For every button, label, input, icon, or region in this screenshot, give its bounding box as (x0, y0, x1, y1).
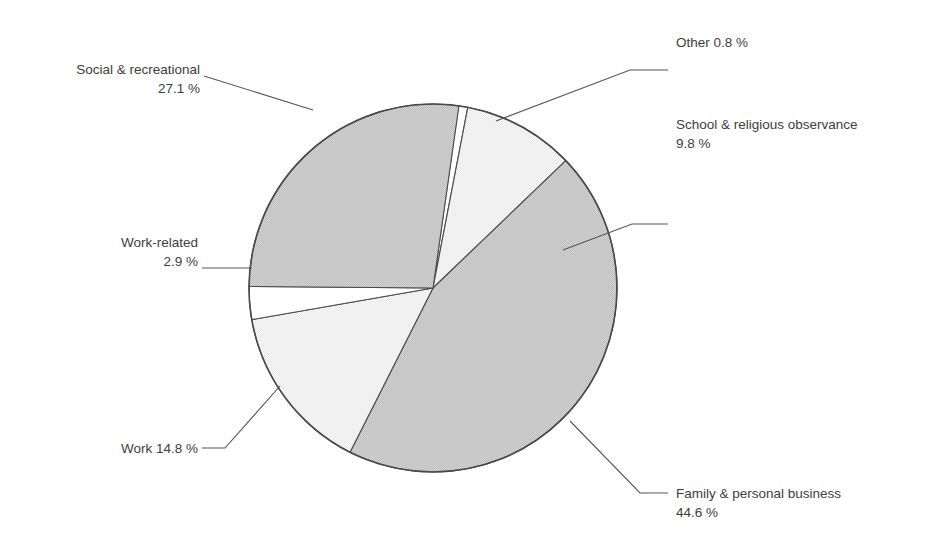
label-school-religious-line1: School & religious observance (676, 117, 858, 132)
label-work: Work 14.8 % (18, 439, 198, 458)
label-school-religious: School & religious observance 9.8 % (676, 115, 926, 153)
leader-other (496, 70, 668, 121)
label-work-line1: Work 14.8 % (121, 441, 198, 456)
label-school-religious-line2: 9.8 % (676, 134, 926, 153)
label-family-line2: 44.6 % (676, 503, 926, 522)
leader-social-recreational (204, 76, 313, 110)
pie-slice-social-recreational[interactable] (249, 104, 459, 288)
pie-slices-group (249, 104, 617, 472)
label-other-line1: Other 0.8 % (676, 35, 748, 50)
pie-chart-figure: Social & recreational 27.1 % Work-relate… (0, 0, 929, 546)
label-social-recreational: Social & recreational 27.1 % (0, 60, 200, 98)
label-other: Other 0.8 % (676, 33, 916, 52)
label-work-related: Work-related 2.9 % (18, 233, 198, 271)
label-family-line1: Family & personal business (676, 486, 841, 501)
label-work-related-line1: Work-related (121, 235, 198, 250)
leader-work (202, 386, 280, 448)
label-family-personal-business: Family & personal business 44.6 % (676, 484, 926, 522)
label-social-recreational-line2: 27.1 % (0, 79, 200, 98)
label-social-recreational-line1: Social & recreational (76, 62, 200, 77)
leader-family-personal-business (570, 421, 668, 493)
label-work-related-line2: 2.9 % (18, 252, 198, 271)
